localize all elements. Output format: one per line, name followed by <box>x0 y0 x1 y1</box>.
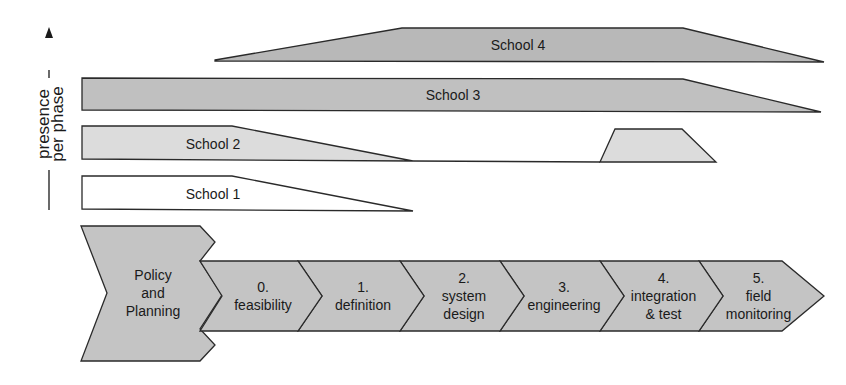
school-3-label: School 3 <box>426 87 481 103</box>
school-2-return-shape <box>600 129 716 162</box>
phase-3-label-line1: engineering <box>527 297 600 313</box>
phase-4-label-line1: integration <box>631 288 696 304</box>
phase-0-number: 0. <box>257 279 269 295</box>
axis-arrow-icon <box>45 27 53 38</box>
policy-line3: Planning <box>126 303 181 319</box>
school-2-shape <box>82 126 413 161</box>
phase-3-number: 3. <box>558 279 570 295</box>
school-1-label: School 1 <box>186 186 241 202</box>
phase-2-label-line2: design <box>443 306 484 322</box>
phase-1-label-line1: definition <box>335 297 391 313</box>
policy-planning-chevron: Policy and Planning <box>81 226 222 361</box>
axis-label-line2: per phase <box>48 86 67 162</box>
phase-chevrons: 5.fieldmonitoring4.integration& test3.en… <box>200 261 824 331</box>
school-4-band: School 4 <box>215 28 824 62</box>
phase-4-label-line2: & test <box>646 306 682 322</box>
phase-2-label-line1: system <box>442 288 486 304</box>
phase-5-label-line1: field <box>746 288 772 304</box>
school-4-label: School 4 <box>491 37 546 53</box>
school-2-baseline <box>413 161 600 162</box>
school-2-band: School 2 <box>82 126 716 162</box>
school-2-label: School 2 <box>186 136 241 152</box>
policy-line1: Policy <box>134 267 171 283</box>
phase-5-number: 5. <box>753 270 765 286</box>
presence-axis: presence per phase <box>30 27 72 210</box>
school-1-band: School 1 <box>82 176 413 211</box>
policy-line2: and <box>141 285 164 301</box>
phase-4-number: 4. <box>658 270 670 286</box>
phase-5-label-line2: monitoring <box>726 306 791 322</box>
phase-0-label-line1: feasibility <box>234 297 292 313</box>
school-3-band: School 3 <box>82 78 821 112</box>
school-1-shape <box>82 176 413 211</box>
phase-1-number: 1. <box>357 279 369 295</box>
phase-2-number: 2. <box>458 270 470 286</box>
lifecycle-diagram: presence per phase School 4 School 3 Sch… <box>0 0 846 385</box>
